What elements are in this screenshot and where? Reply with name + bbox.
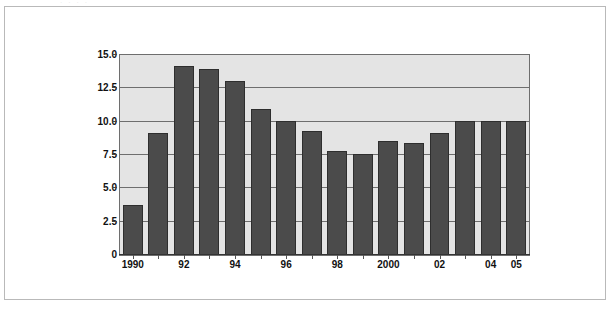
y-axis-tick bbox=[112, 221, 117, 222]
y-axis-tick bbox=[112, 87, 117, 88]
y-axis-tick bbox=[112, 121, 117, 122]
bar bbox=[506, 121, 526, 254]
x-axis-tick bbox=[261, 255, 262, 259]
x-axis-tick bbox=[209, 255, 210, 259]
bar bbox=[148, 133, 168, 254]
bar-series bbox=[120, 55, 528, 254]
x-axis-label: 2000 bbox=[377, 259, 399, 270]
x-axis-label: 02 bbox=[434, 259, 445, 270]
x-axis-tick bbox=[363, 255, 364, 259]
bar bbox=[378, 141, 398, 254]
bar bbox=[276, 121, 296, 254]
y-axis: 02.55.07.510.012.515.0 bbox=[75, 47, 117, 263]
x-axis-label: 1990 bbox=[122, 259, 144, 270]
x-axis-label: 04 bbox=[485, 259, 496, 270]
x-axis-label: 92 bbox=[178, 259, 189, 270]
y-axis-tick bbox=[112, 154, 117, 155]
x-axis-tick bbox=[158, 255, 159, 259]
y-axis-tick bbox=[112, 187, 117, 188]
x-axis-label: 05 bbox=[511, 259, 522, 270]
bar bbox=[302, 131, 322, 254]
figure-frame: 02.55.07.510.012.515.0 19909294969820000… bbox=[4, 6, 606, 300]
bar-chart: 02.55.07.510.012.515.0 19909294969820000… bbox=[5, 7, 607, 301]
bar bbox=[225, 81, 245, 254]
x-axis-line bbox=[119, 254, 530, 255]
x-axis-label: 98 bbox=[332, 259, 343, 270]
x-axis-tick bbox=[465, 255, 466, 259]
y-axis-label: 0 bbox=[111, 249, 117, 260]
bar bbox=[123, 205, 143, 254]
bar bbox=[327, 151, 347, 254]
bar bbox=[353, 154, 373, 254]
x-axis-label: 96 bbox=[281, 259, 292, 270]
bar bbox=[199, 69, 219, 254]
bar bbox=[251, 109, 271, 254]
bar bbox=[455, 121, 475, 254]
bar bbox=[404, 143, 424, 254]
y-axis-tick bbox=[112, 54, 117, 55]
bar bbox=[174, 66, 194, 254]
bar bbox=[481, 121, 501, 254]
bar bbox=[430, 133, 450, 254]
x-axis-tick bbox=[312, 255, 313, 259]
scan-artifact-text: · · · · bbox=[0, 0, 612, 5]
x-axis-label: 94 bbox=[229, 259, 240, 270]
x-axis-tick bbox=[414, 255, 415, 259]
